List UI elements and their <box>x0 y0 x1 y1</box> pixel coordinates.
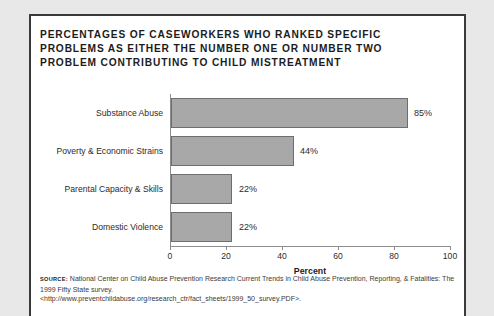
chart-plot-area: Substance Abuse 85% Poverty & Economic S… <box>31 94 468 264</box>
x-axis-tick-label: 40 <box>277 251 287 261</box>
source-label: SOURCE: <box>40 276 68 282</box>
bar-substance-abuse[interactable] <box>171 98 408 128</box>
x-axis-tick <box>226 246 227 250</box>
x-axis-tick-label: 60 <box>333 251 343 261</box>
category-label: Domestic Violence <box>92 222 163 232</box>
x-axis-tick <box>450 246 451 250</box>
bar-value-label: 22% <box>239 222 257 232</box>
x-axis-tick-label: 80 <box>389 251 399 261</box>
x-axis-tick-label: 0 <box>168 251 173 261</box>
category-label: Poverty & Economic Strains <box>56 146 163 156</box>
bar-domestic-violence[interactable] <box>171 212 232 242</box>
bar-parental-capacity-skills[interactable] <box>171 174 232 204</box>
category-label: Substance Abuse <box>96 108 163 118</box>
bar-row: Domestic Violence 22% <box>31 208 468 246</box>
source-url: <http://www.preventchildabuse.org/resear… <box>40 294 455 304</box>
bar-value-label: 44% <box>300 146 318 156</box>
bar-value-label: 22% <box>239 184 257 194</box>
bar-poverty-economic-strains[interactable] <box>171 136 294 166</box>
bar-value-label: 85% <box>414 108 432 118</box>
bar-row: Parental Capacity & Skills 22% <box>31 170 468 208</box>
figure-card: PERCENTAGES OF CASEWORKERS WHO RANKED SP… <box>29 14 466 316</box>
source-citation-text: National Center on Child Abuse Preventio… <box>40 275 454 293</box>
x-axis-tick-label: 20 <box>221 251 231 261</box>
x-axis-line <box>170 246 450 247</box>
source-note: SOURCE: National Center on Child Abuse P… <box>40 274 455 304</box>
x-axis-tick <box>394 246 395 250</box>
page-title: PERCENTAGES OF CASEWORKERS WHO RANKED SP… <box>40 28 440 71</box>
x-axis-tick-label: 100 <box>443 251 457 261</box>
bar-row: Poverty & Economic Strains 44% <box>31 132 468 170</box>
category-label: Parental Capacity & Skills <box>65 184 163 194</box>
x-axis-tick <box>338 246 339 250</box>
x-axis-tick <box>170 246 171 250</box>
bar-row: Substance Abuse 85% <box>31 94 468 132</box>
x-axis-tick <box>282 246 283 250</box>
